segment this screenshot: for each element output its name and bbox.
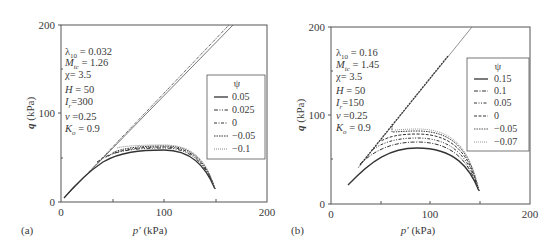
series-0.025-a [97, 148, 215, 189]
legend-item-a-3: −0.05 [232, 130, 255, 141]
xtick-100-b: 100 [422, 208, 439, 220]
panel-label-b: (b) [291, 224, 304, 237]
y-axis-title-a: q (kPa) [24, 97, 37, 129]
panel-label-a: (a) [21, 224, 34, 237]
stress-paths-b [348, 124, 479, 191]
svg-text:χ= 3.5: χ= 3.5 [335, 71, 362, 82]
ytick-0-a: 0 [50, 196, 56, 208]
legend-item-b-4: −0.05 [494, 123, 517, 134]
ytick-100-a: 100 [39, 107, 56, 119]
figure-canvas: 200 100 0 0 100 200 p′ (kPa) q (kPa) (a)… [0, 0, 555, 241]
xtick-0-b: 0 [328, 208, 334, 220]
svg-text:Ko = 0.9: Ko = 0.9 [335, 122, 371, 136]
legend-item-b-3: 0 [494, 110, 499, 121]
series-0.05-a [64, 150, 215, 198]
ytick-0-b: 0 [320, 198, 326, 210]
xtick-100-a: 100 [156, 206, 173, 218]
series-neg0.07-b [394, 129, 479, 191]
ytick-200-a: 200 [39, 19, 56, 31]
xtick-200-a: 200 [259, 206, 276, 218]
parameters-b: λ10 = 0.16 Mtc = 1.45 χ= 3.5 H = 50 Ir=1… [335, 47, 379, 136]
panel-a: 200 100 0 0 100 200 p′ (kPa) q (kPa) (a)… [21, 19, 276, 237]
svg-text:Ko = 0.9: Ko = 0.9 [64, 123, 100, 137]
x-axis-title-b: p′ (kPa) [400, 224, 436, 237]
legend-item-b-5: −0.07 [494, 136, 517, 147]
panel-b: 200 100 0 0 100 200 p′ (kPa) q (kPa) (b)… [291, 21, 539, 237]
legend-title-a: ψ [234, 78, 241, 89]
svg-text:ν =0.25: ν =0.25 [65, 111, 97, 122]
stress-paths-a [64, 145, 215, 198]
legend-item-a-2: 0 [232, 117, 237, 128]
svg-text:H = 50: H = 50 [335, 85, 365, 96]
legend-item-a-0: 0.05 [232, 91, 250, 102]
legend-item-b-1: 0.1 [494, 85, 507, 96]
y-axis-title-b: q (kPa) [294, 99, 307, 131]
svg-text:H = 50: H = 50 [64, 84, 94, 95]
legend-item-b-0: 0.15 [494, 73, 512, 84]
xtick-0-a: 0 [58, 206, 64, 218]
parameters-a: λ10 = 0.032 Mtc = 1.26 χ= 3.5 H = 50 Ir=… [64, 46, 112, 137]
legend-item-b-2: 0.05 [494, 97, 512, 108]
series-0-a [105, 147, 215, 189]
ytick-200-b: 200 [309, 21, 326, 33]
svg-text:Ir=150: Ir=150 [335, 97, 364, 111]
svg-text:χ= 3.5: χ= 3.5 [64, 69, 91, 80]
legend-item-a-4: −0.1 [232, 143, 250, 154]
legend-title-b: ψ [495, 61, 502, 72]
legend-b: ψ 0.15 0.1 0.05 0 −0.05 −0.07 [467, 58, 529, 151]
xtick-200-b: 200 [522, 208, 539, 220]
series-0.15-b [348, 148, 479, 191]
svg-text:ν =0.25: ν =0.25 [336, 110, 368, 121]
ytick-100-b: 100 [309, 109, 326, 121]
legend-a: ψ 0.05 0.025 0 −0.05 −0.1 [207, 75, 265, 159]
x-axis-title-a: p′ (kPa) [132, 224, 168, 237]
svg-text:Ir=300: Ir=300 [64, 96, 93, 110]
legend-item-a-1: 0.025 [232, 104, 255, 115]
